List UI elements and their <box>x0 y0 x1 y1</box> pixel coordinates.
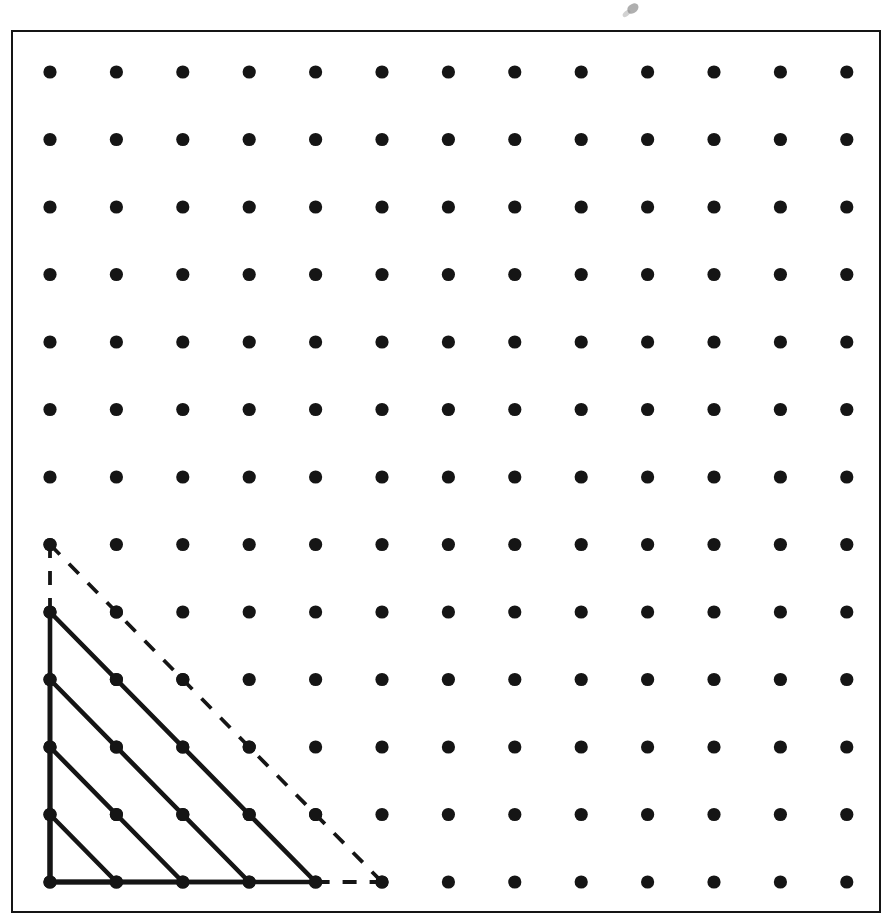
figure-page <box>0 0 896 920</box>
figure-border <box>11 30 881 913</box>
